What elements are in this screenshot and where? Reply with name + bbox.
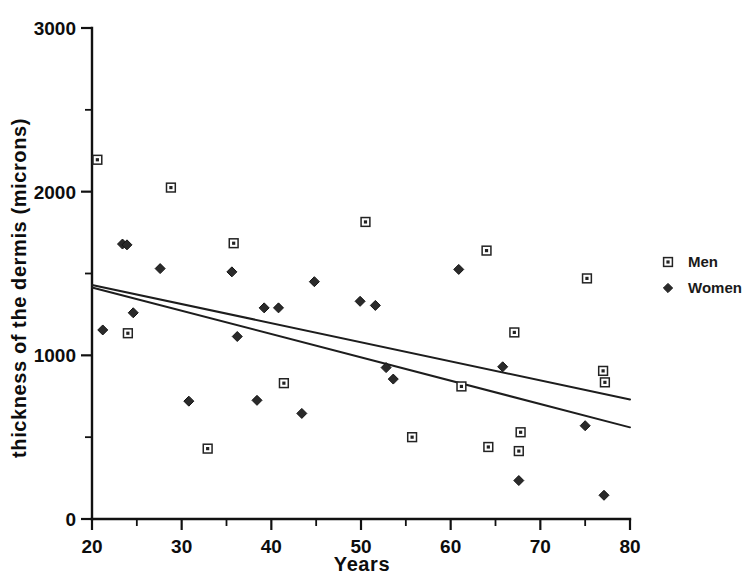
marker-square-center xyxy=(487,445,490,448)
marker-square-center xyxy=(411,436,414,439)
marker-square-center xyxy=(460,385,463,388)
data-point-women xyxy=(309,277,319,287)
data-point-men xyxy=(516,428,525,437)
marker-square-center xyxy=(485,249,488,252)
data-point-women xyxy=(388,374,398,384)
x-axis-title: Years xyxy=(334,553,390,575)
marker-square-center xyxy=(666,260,669,263)
dermis-thickness-scatter-figure: 0100020003000 20304050607080 Years thick… xyxy=(0,0,746,582)
data-point-men xyxy=(482,246,491,255)
data-point-women xyxy=(274,303,284,313)
marker-square-center xyxy=(513,331,516,334)
data-point-women xyxy=(355,296,365,306)
data-point-women xyxy=(297,408,307,418)
data-point-men xyxy=(599,366,608,375)
data-series-women xyxy=(98,239,609,500)
data-series-men xyxy=(93,155,609,455)
x-tick-label: 60 xyxy=(440,536,461,557)
marker-square-center xyxy=(602,369,605,372)
data-point-women xyxy=(580,421,590,431)
marker-square-center xyxy=(517,449,520,452)
marker-square-center xyxy=(364,220,367,223)
y-tick-label: 2000 xyxy=(34,182,76,203)
x-tick-label: 30 xyxy=(171,536,192,557)
data-point-women xyxy=(184,396,194,406)
data-point-women xyxy=(259,303,269,313)
marker-square-center xyxy=(169,186,172,189)
data-point-women xyxy=(232,332,242,342)
data-point-women xyxy=(252,395,262,405)
data-point-men xyxy=(203,444,212,453)
marker-square-center xyxy=(282,382,285,385)
axes xyxy=(92,28,630,519)
data-point-women xyxy=(599,490,609,500)
legend-marker-women xyxy=(663,283,672,292)
data-point-women xyxy=(98,325,108,335)
data-point-women xyxy=(498,362,508,372)
marker-square-center xyxy=(126,332,129,335)
data-point-women xyxy=(128,308,138,318)
data-point-men xyxy=(123,329,132,338)
data-point-women xyxy=(227,267,237,277)
x-tick-label: 70 xyxy=(530,536,551,557)
plot-canvas: 0100020003000 20304050607080 Years thick… xyxy=(0,0,746,582)
data-point-men xyxy=(514,447,523,456)
data-point-men xyxy=(408,433,417,442)
y-axis-ticks xyxy=(81,28,92,519)
marker-square-center xyxy=(603,381,606,384)
x-tick-label: 20 xyxy=(81,536,102,557)
x-tick-label: 40 xyxy=(261,536,282,557)
marker-square-center xyxy=(232,242,235,245)
marker-square-center xyxy=(206,447,209,450)
legend-marker-men xyxy=(664,258,673,267)
data-point-men xyxy=(510,328,519,337)
y-tick-label: 1000 xyxy=(34,345,76,366)
y-tick-label: 3000 xyxy=(34,18,76,39)
y-axis-title: thickness of the dermis (microns) xyxy=(8,118,30,458)
data-point-men xyxy=(484,443,493,452)
data-point-men xyxy=(600,378,609,387)
data-point-women xyxy=(370,300,380,310)
x-tick-label: 80 xyxy=(619,536,640,557)
data-point-women xyxy=(514,476,524,486)
data-point-women xyxy=(454,264,464,274)
data-point-men xyxy=(583,274,592,283)
y-axis-tick-labels: 0100020003000 xyxy=(34,18,76,530)
data-point-men xyxy=(93,155,102,164)
regression-lines xyxy=(92,285,630,427)
x-axis-ticks xyxy=(92,519,630,530)
legend-label-women: Women xyxy=(688,279,742,296)
regression-line-women xyxy=(92,287,630,427)
data-point-men xyxy=(457,382,466,391)
data-point-women xyxy=(155,264,165,274)
marker-square-center xyxy=(96,158,99,161)
y-tick-label: 0 xyxy=(65,509,76,530)
data-point-men xyxy=(167,183,176,192)
legend: MenWomen xyxy=(663,253,742,296)
legend-label-men: Men xyxy=(688,253,718,270)
data-point-men xyxy=(229,239,238,248)
data-point-men xyxy=(361,218,370,227)
marker-square-center xyxy=(519,431,522,434)
data-point-men xyxy=(279,379,288,388)
marker-square-center xyxy=(585,277,588,280)
